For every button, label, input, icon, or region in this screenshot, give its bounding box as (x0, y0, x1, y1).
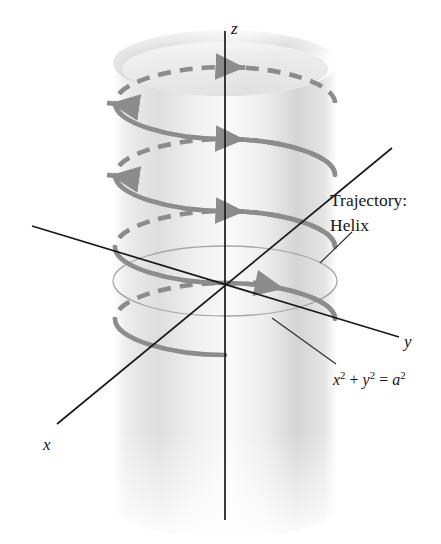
eqn-x-exp: 2 (340, 369, 345, 381)
eqn-a: a (392, 371, 400, 388)
cylinder-equation-label: x2 + y2 = a2 (333, 370, 406, 388)
helix-trajectory-figure (0, 0, 441, 544)
axis-label-y: y (404, 333, 412, 350)
trajectory-callout-line1: Trajectory: (330, 192, 407, 210)
trajectory-callout-line2: Helix (330, 217, 369, 235)
eqn-y-exp: 2 (370, 369, 375, 381)
axis-label-z: z (231, 20, 238, 37)
eqn-a-exp: 2 (400, 369, 405, 381)
eqn-equals: = (379, 371, 388, 388)
eqn-plus: + (350, 371, 359, 388)
eqn-y: y (363, 371, 370, 388)
axis-label-x: x (43, 436, 51, 453)
